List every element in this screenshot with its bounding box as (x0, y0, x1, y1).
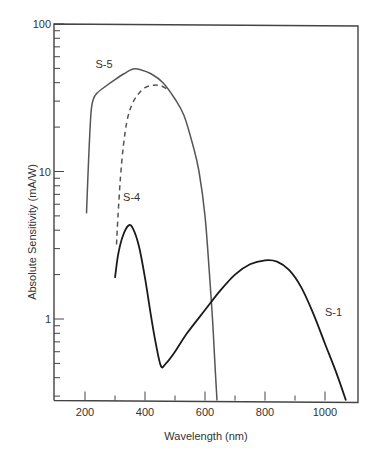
x-tick-label: 200 (76, 406, 94, 418)
x-tick-label: 800 (256, 406, 274, 418)
y-axis-label: Absolute Sensitivity (mA/W) (26, 164, 38, 300)
x-tick-label: 400 (136, 406, 154, 418)
plot-frame (54, 24, 358, 403)
y-tick-label: 1 (45, 313, 51, 325)
series-label-s-1: S-1 (325, 306, 342, 318)
series-s-4 (117, 85, 168, 244)
x-axis-ticks: 2004006008001000 (76, 392, 337, 418)
series-s-5 (87, 69, 218, 401)
x-tick-label: 1000 (313, 406, 337, 418)
x-tick-label: 600 (196, 406, 214, 418)
series-labels: S-5S-4S-1 (96, 58, 343, 317)
series-label-s-5: S-5 (96, 58, 113, 70)
spectral-sensitivity-chart: 2004006008001000 110100 S-5S-4S-1 Wavele… (0, 0, 380, 459)
y-tick-label: 10 (39, 166, 51, 178)
x-axis-label: Wavelength (nm) (164, 430, 247, 442)
series-label-s-4: S-4 (123, 191, 140, 203)
series-s-1 (115, 225, 346, 401)
y-tick-label: 100 (33, 18, 51, 30)
axes-frame (54, 24, 358, 403)
data-series (87, 69, 347, 401)
